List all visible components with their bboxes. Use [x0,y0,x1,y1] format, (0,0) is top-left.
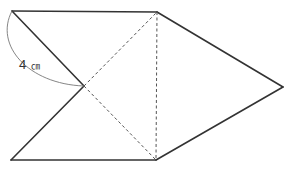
pyramid-net-diagram: 4 ㎝ [0,0,293,173]
fold-center-to-bottom-right [84,86,156,160]
edge-bottom-right-to-apex [156,87,283,160]
measurement-label: 4 ㎝ [19,55,40,72]
fold-center-to-top-right [84,12,157,86]
edge-top [12,11,157,12]
measurement-value: 4 [19,57,26,72]
measurement-unit: ㎝ [31,61,40,71]
edge-top-left-to-center [12,11,84,86]
edge-top-right-to-apex [157,12,283,87]
edge-center-to-bottom-left [11,86,84,160]
fold-vertical [156,12,157,160]
